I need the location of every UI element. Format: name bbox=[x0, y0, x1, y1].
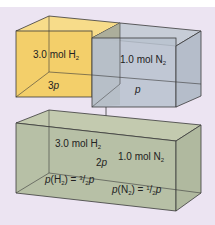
mixture-container bbox=[16, 110, 201, 211]
mix-h2-amount-label: 3.0 mol H2 bbox=[55, 139, 101, 150]
n2-pressure-label: p bbox=[135, 85, 141, 95]
total-pressure-label: 2p bbox=[96, 158, 107, 168]
partial-pressure-n2: p(N2) = 1/2p bbox=[112, 185, 161, 196]
h2-amount-label: 3.0 mol H2 bbox=[33, 50, 79, 61]
gas-mixing-diagram bbox=[0, 0, 215, 225]
h2-pressure-label: 3p bbox=[48, 81, 59, 91]
mix-n2-amount-label: 1.0 mol N2 bbox=[118, 152, 164, 163]
n2-amount-label: 1.0 mol N2 bbox=[120, 55, 166, 66]
partial-pressure-h2: p(H2) = 3/2p bbox=[45, 175, 94, 186]
